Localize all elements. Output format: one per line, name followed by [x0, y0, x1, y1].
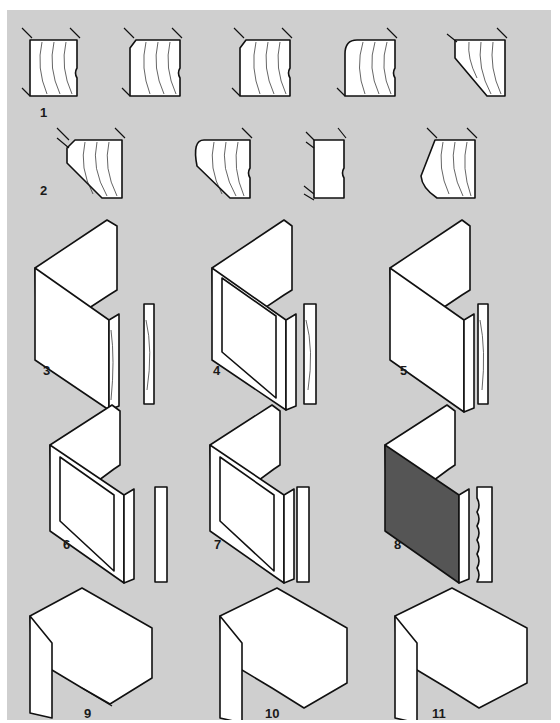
- figure-label-2: 2: [40, 183, 47, 198]
- figure-label-8: 8: [394, 537, 401, 552]
- figure-label-3: 3: [43, 363, 50, 378]
- panel-5: [390, 220, 488, 412]
- cornice-9: [30, 588, 152, 718]
- figure-label-1: 1: [40, 105, 47, 120]
- panel-8: [385, 405, 492, 583]
- profile-1c: [232, 28, 292, 96]
- profile-1a: [22, 28, 80, 96]
- figure-label-7: 7: [214, 537, 221, 552]
- cornice-10: [220, 588, 347, 720]
- diagram-plate: 1 2 3 4 5 6 7 8 9 10 11: [7, 10, 551, 720]
- profile-2d: [421, 128, 477, 198]
- profile-2c: [304, 128, 346, 200]
- figure-label-5: 5: [400, 363, 407, 378]
- figure-label-6: 6: [63, 537, 70, 552]
- profile-1d: [337, 28, 397, 96]
- panel-4: [212, 220, 316, 410]
- panel-6: [50, 405, 167, 583]
- moulding-profiles-drawing: [7, 10, 551, 720]
- cornice-11: [395, 588, 527, 720]
- profile-1b: [122, 28, 182, 96]
- profile-2a: [57, 128, 125, 198]
- figure-label-10: 10: [265, 706, 279, 721]
- profile-1e: [447, 28, 507, 96]
- figure-label-11: 11: [432, 706, 446, 721]
- profile-2b: [196, 128, 252, 198]
- figure-label-4: 4: [213, 363, 220, 378]
- panel-3: [35, 220, 154, 410]
- figure-label-9: 9: [84, 706, 91, 721]
- panel-7: [210, 405, 309, 583]
